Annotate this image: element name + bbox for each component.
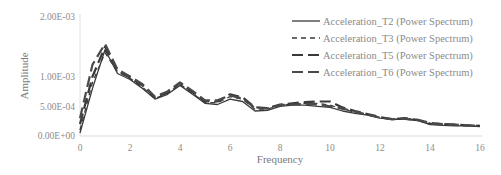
x-tick-label: 4 (178, 143, 183, 153)
x-tick-label: 0 (78, 143, 83, 153)
legend-item-t6: Acceleration_T6 (Power Spectrum) (292, 67, 473, 79)
x-tick-label: 2 (128, 143, 133, 153)
legend-item-t2: Acceleration_T2 (Power Spectrum) (292, 16, 473, 28)
x-axis-title: Frequency (257, 153, 304, 165)
y-tick-label: 1.00E-03 (40, 72, 75, 82)
legend-label: Acceleration_T2 (Power Spectrum) (323, 16, 473, 28)
power-spectrum-chart: 2.00E-03 1.00E-03 5.00E-04 0.00E+00 0 2 … (0, 0, 501, 175)
x-tick-label: 6 (228, 143, 233, 153)
legend-label: Acceleration_T6 (Power Spectrum) (323, 67, 473, 79)
legend: Acceleration_T2 (Power Spectrum) Acceler… (292, 16, 473, 79)
legend-label: Acceleration_T5 (Power Spectrum) (323, 50, 473, 62)
y-tick-label: 5.00E-04 (40, 102, 75, 112)
legend-label: Acceleration_T3 (Power Spectrum) (323, 33, 473, 45)
y-axis-title: Amplitude (18, 52, 30, 99)
x-tick-label: 16 (475, 143, 485, 153)
x-tick-labels: 0 2 4 6 8 10 12 14 16 (78, 143, 485, 153)
x-tick-label: 12 (375, 143, 385, 153)
legend-item-t3: Acceleration_T3 (Power Spectrum) (292, 33, 473, 45)
legend-item-t5: Acceleration_T5 (Power Spectrum) (292, 50, 473, 62)
x-tick-label: 8 (278, 143, 283, 153)
series-line-2 (80, 53, 480, 130)
x-tick-label: 14 (425, 143, 435, 153)
y-tick-label: 2.00E-03 (40, 12, 75, 22)
y-tick-labels: 2.00E-03 1.00E-03 5.00E-04 0.00E+00 (38, 12, 76, 141)
y-tick-label: 0.00E+00 (38, 131, 76, 141)
x-tick-label: 10 (325, 143, 335, 153)
